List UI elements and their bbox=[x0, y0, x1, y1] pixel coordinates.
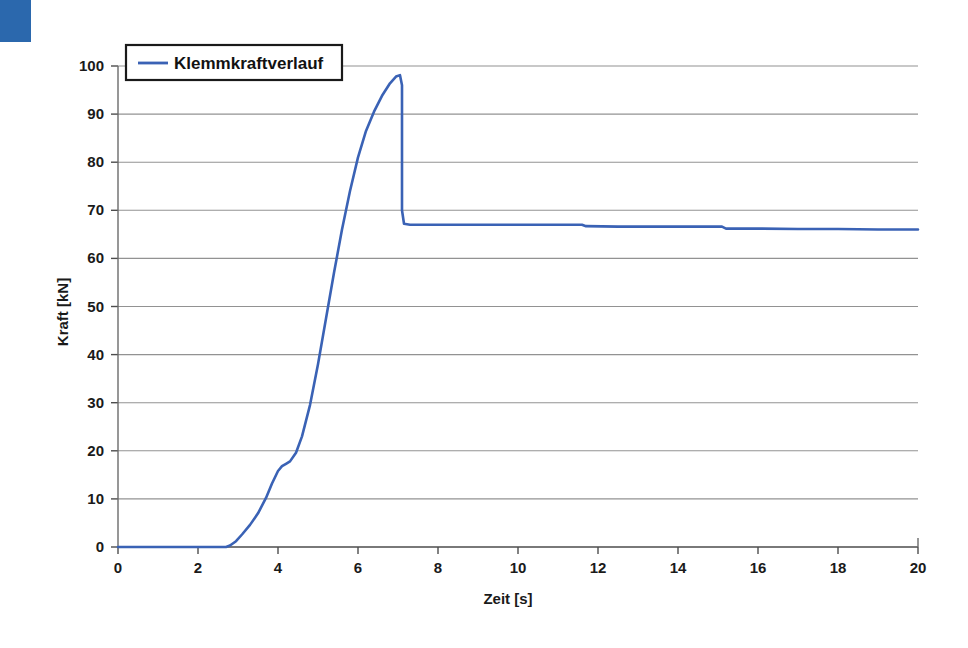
y-tick-label: 80 bbox=[87, 153, 104, 170]
x-tick-label: 6 bbox=[354, 559, 362, 576]
x-tick-label: 2 bbox=[194, 559, 202, 576]
x-axis-ticks bbox=[118, 547, 918, 554]
x-tick-label: 8 bbox=[434, 559, 442, 576]
x-tick-label: 20 bbox=[910, 559, 927, 576]
y-tick-label: 10 bbox=[87, 490, 104, 507]
y-tick-label: 90 bbox=[87, 105, 104, 122]
x-tick-label: 10 bbox=[510, 559, 527, 576]
y-tick-label: 20 bbox=[87, 442, 104, 459]
y-tick-label: 60 bbox=[87, 249, 104, 266]
y-tick-label: 30 bbox=[87, 394, 104, 411]
legend-entry-label: Klemmkraftverlauf bbox=[174, 54, 324, 73]
x-tick-label: 14 bbox=[670, 559, 687, 576]
y-axis-title: Kraft [kN] bbox=[54, 278, 71, 346]
x-tick-label: 4 bbox=[274, 559, 283, 576]
y-axis-tick-labels: 0102030405060708090100 bbox=[79, 57, 104, 555]
y-tick-label: 0 bbox=[96, 538, 104, 555]
x-axis-tick-labels: 02468101214161820 bbox=[114, 559, 927, 576]
chart-canvas: 0102030405060708090100 02468101214161820… bbox=[0, 0, 968, 648]
x-tick-label: 12 bbox=[590, 559, 607, 576]
chart-legend[interactable]: Klemmkraftverlauf bbox=[126, 45, 342, 80]
x-tick-label: 16 bbox=[750, 559, 767, 576]
y-tick-label: 70 bbox=[87, 201, 104, 218]
y-tick-label: 100 bbox=[79, 57, 104, 74]
y-axis-ticks bbox=[111, 66, 118, 547]
chart-figure: 0102030405060708090100 02468101214161820… bbox=[0, 0, 968, 648]
x-tick-label: 0 bbox=[114, 559, 122, 576]
y-tick-label: 40 bbox=[87, 346, 104, 363]
y-tick-label: 50 bbox=[87, 298, 104, 315]
x-tick-label: 18 bbox=[830, 559, 847, 576]
x-axis-title: Zeit [s] bbox=[483, 590, 532, 607]
